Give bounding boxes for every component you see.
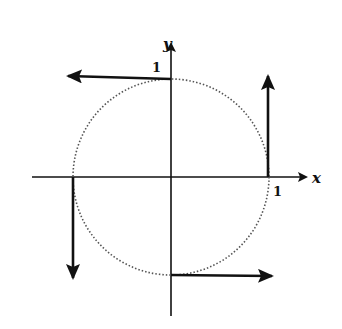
y-axis-label: y: [162, 35, 173, 53]
tangent-vector-top-left: [68, 76, 171, 79]
x-tick-label-1: 1: [273, 184, 282, 199]
y-tick-label-1: 1: [152, 60, 161, 75]
tangent-vector-bottom-right: [171, 275, 272, 276]
x-axis-label: x: [311, 169, 322, 187]
unit-circle-diagram: y x 1 1: [0, 0, 342, 329]
